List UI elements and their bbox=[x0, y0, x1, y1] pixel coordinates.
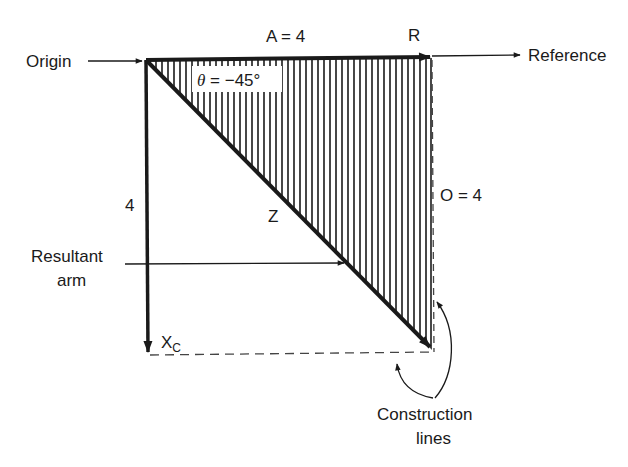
theta-label: θ = −45° bbox=[197, 71, 260, 90]
construction-line-horizontal bbox=[150, 352, 434, 355]
theta-symbol: θ bbox=[197, 71, 205, 90]
theta-value: = −45° bbox=[205, 71, 260, 90]
vector-diagram: Origin Reference A = 4 R θ = −45° 4 Z O … bbox=[0, 0, 628, 467]
reference-line bbox=[432, 55, 520, 56]
xc-label: XC bbox=[161, 333, 181, 355]
resultant-arm-label-line2: arm bbox=[57, 271, 86, 290]
xc-subscript: C bbox=[172, 341, 181, 355]
construction-pointer-curve-right bbox=[435, 302, 451, 398]
resultant-arm-label-line1: Resultant bbox=[31, 247, 103, 266]
reference-label: Reference bbox=[528, 46, 606, 65]
construction-lines-label-line2: lines bbox=[416, 429, 451, 448]
origin-label: Origin bbox=[26, 52, 71, 71]
r-label: R bbox=[408, 26, 420, 45]
xc-main: X bbox=[161, 333, 172, 352]
z-label: Z bbox=[268, 207, 278, 226]
resultant-arm-pointer-arrow bbox=[125, 263, 344, 264]
construction-pointer-curve-left bbox=[397, 364, 433, 398]
o-value-label: O = 4 bbox=[440, 186, 482, 205]
vertical-magnitude-label: 4 bbox=[125, 196, 134, 215]
construction-line-vertical bbox=[432, 60, 434, 352]
reactance-vector-xc bbox=[146, 60, 148, 352]
a-value-label: A = 4 bbox=[266, 27, 305, 46]
resistance-vector-a bbox=[146, 57, 430, 60]
construction-lines-label-line1: Construction bbox=[377, 405, 472, 424]
